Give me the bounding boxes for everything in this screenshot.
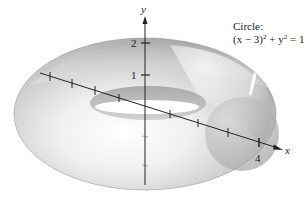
eq-part-rhs: = 1 (287, 33, 304, 45)
y-axis-label-text: y (141, 3, 146, 15)
x-axis-label: x (285, 144, 290, 156)
eq-part-lhs: (x − 3) (233, 33, 263, 45)
y-tick-label-1: 1 (131, 69, 137, 81)
x-tick-label-4: 4 (255, 152, 261, 164)
annotation-equation: (x − 3)2 + y2 = 1 (233, 33, 304, 45)
cross-section-circle (205, 97, 279, 171)
x-axis-arrow (273, 145, 283, 151)
x-axis-label-text: x (285, 144, 290, 156)
y-axis-label: y (141, 3, 146, 15)
annotation-title: Circle: (233, 20, 263, 32)
y-tick-label-2: 2 (131, 37, 137, 49)
y-axis-arrow (143, 16, 148, 24)
eq-part-plus: + y (267, 33, 284, 45)
